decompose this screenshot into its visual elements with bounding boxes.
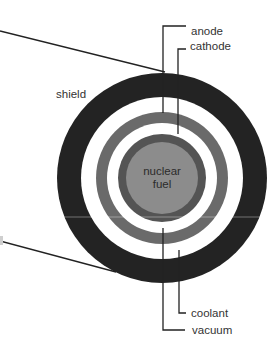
anode-label: anode <box>191 25 223 37</box>
thermionic-fuel-element-diagram: anode cathode shield nuclear fuel coolan… <box>0 0 280 357</box>
vacuum-label: vacuum <box>192 324 232 336</box>
shield-label: shield <box>56 88 86 100</box>
left-edge-smudge <box>0 236 3 245</box>
scan-artifact-band <box>56 216 268 218</box>
cathode-label: cathode <box>190 40 231 52</box>
nuclear-fuel-label-line1: nuclear <box>143 165 181 177</box>
coolant-label: coolant <box>191 307 229 319</box>
upper-tangent-line <box>0 31 165 72</box>
nuclear-fuel-label-line2: fuel <box>153 178 172 190</box>
